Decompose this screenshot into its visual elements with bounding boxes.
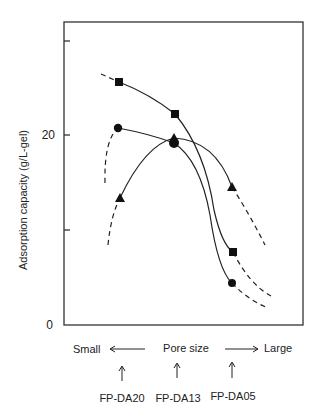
pore-size-label: Pore size — [163, 342, 209, 354]
large-label: Large — [264, 342, 292, 354]
y-axis-label: Adsorption capacity (g/L-gel) — [17, 130, 29, 270]
left-arrow-icon — [110, 346, 145, 352]
circle-series — [105, 128, 268, 308]
category-label-fp-da05: FP-DA05 — [210, 390, 255, 402]
right-arrow-icon — [225, 346, 258, 352]
small-label: Small — [73, 343, 101, 355]
up-arrow-icons — [119, 362, 235, 381]
y-ticks — [64, 41, 70, 230]
square-markers — [115, 78, 237, 256]
category-label-fp-da20: FP-DA20 — [99, 392, 144, 404]
category-label-fp-da13: FP-DA13 — [155, 392, 200, 404]
ytick-label-0: 0 — [46, 318, 53, 332]
ytick-label-20: 20 — [42, 128, 56, 142]
chart: 0 20 Adsorption capacity (g/L-gel) Small — [0, 0, 321, 420]
circle-markers — [114, 124, 236, 287]
plot-frame — [64, 22, 303, 325]
